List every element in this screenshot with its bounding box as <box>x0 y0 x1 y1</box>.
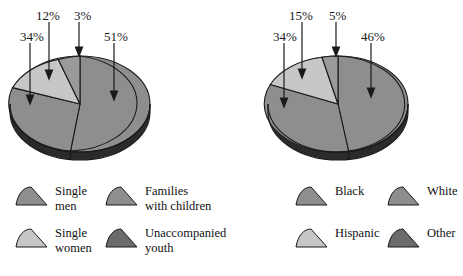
pct-label-3-left: 3% <box>74 8 91 24</box>
legend-label-unaccompanied-youth: Unaccompanied youth <box>145 226 226 256</box>
pct-label-51-left: 51% <box>104 29 128 45</box>
legend-item-white[interactable]: White <box>386 184 458 206</box>
legend-item-single-women[interactable]: Single women <box>14 226 92 256</box>
legend-swatch-unaccompanied-youth <box>104 228 138 248</box>
pct-label-12-left: 12% <box>36 8 60 24</box>
figure-two-pie-charts: 34% 12% 3% 51% <box>0 0 463 276</box>
legend-label-other: Other <box>427 226 455 241</box>
legend-label-single-women: Single women <box>55 226 92 256</box>
legend-label-line1: Single <box>55 184 87 199</box>
legend-label-black: Black <box>335 184 364 199</box>
legend-label-line2: men <box>55 199 87 214</box>
legend-item-hispanic[interactable]: Hispanic <box>294 226 379 248</box>
legend-label-hispanic: Hispanic <box>335 226 379 241</box>
pct-label-15-right: 15% <box>289 8 313 24</box>
legend-label-line1: White <box>427 184 458 199</box>
legend-swatch-white <box>386 186 420 206</box>
legend-item-unaccompanied-youth[interactable]: Unaccompanied youth <box>104 226 226 256</box>
legend-household-type: Single men Families with children Single… <box>0 178 232 276</box>
legend-label-line1: Unaccompanied <box>145 226 226 241</box>
legend-label-families-with-children: Families with children <box>145 184 211 214</box>
pie-left-graphic <box>0 0 232 180</box>
pct-label-5-right: 5% <box>329 8 346 24</box>
pie-chart-household-type: 34% 12% 3% 51% <box>0 0 232 180</box>
legend-item-single-men[interactable]: Single men <box>14 184 87 214</box>
legend-label-line1: Single <box>55 226 92 241</box>
legend-label-line1: Other <box>427 226 455 241</box>
pct-label-34-left: 34% <box>20 29 44 45</box>
legend-swatch-hispanic <box>294 228 328 248</box>
legend-label-single-men: Single men <box>55 184 87 214</box>
pct-label-34-right: 34% <box>273 29 297 45</box>
pie-right-graphic <box>231 0 463 180</box>
legend-label-white: White <box>427 184 458 199</box>
legend-race: Black White Hispanic Other <box>231 178 463 276</box>
legend-label-line2: women <box>55 241 92 256</box>
legend-item-other[interactable]: Other <box>386 226 455 248</box>
legend-label-line1: Hispanic <box>335 226 379 241</box>
legend-swatch-families-with-children <box>104 186 138 206</box>
pie-chart-race: 34% 15% 5% 46% <box>231 0 463 180</box>
legend-label-line1: Families <box>145 184 211 199</box>
legend-label-line2: with children <box>145 199 211 214</box>
legend-swatch-single-men <box>14 186 48 206</box>
legend-swatch-other <box>386 228 420 248</box>
legend-item-families-with-children[interactable]: Families with children <box>104 184 211 214</box>
legend-label-line1: Black <box>335 184 364 199</box>
legend-swatch-black <box>294 186 328 206</box>
legend-label-line2: youth <box>145 241 226 256</box>
legend-item-black[interactable]: Black <box>294 184 364 206</box>
legend-swatch-single-women <box>14 228 48 248</box>
pct-label-46-right: 46% <box>361 29 385 45</box>
